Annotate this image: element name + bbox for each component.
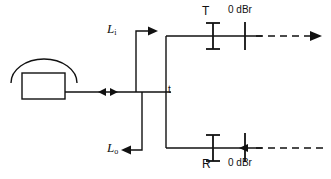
line-out-path (131, 92, 142, 150)
telephone-handset-arc (11, 59, 77, 83)
line-out-arrowhead (121, 146, 131, 155)
label-line-out-subscript: o (114, 147, 118, 156)
diagram-canvas (0, 0, 331, 179)
label-level-point-top: 0 dBr (228, 5, 252, 15)
label-line-in: Li (107, 22, 116, 37)
line-out-branch (131, 92, 142, 150)
arrowhead-receive-in (239, 144, 248, 152)
telephone-hybrid-diagram: Li Lo t T R 0 dBr 0 dBr (0, 0, 331, 179)
label-transmit-t: T (202, 5, 209, 17)
arrowhead-right (110, 88, 118, 96)
telephone-set-icon (11, 59, 77, 99)
telephone-base-box (22, 73, 65, 99)
line-in-branch (136, 31, 148, 92)
label-level-point-bottom: 0 dBr (228, 158, 252, 168)
transmit-output-arrowhead (310, 31, 322, 41)
line-in-arrowhead (148, 27, 158, 36)
label-receive-r: R (202, 158, 211, 170)
arrowhead-left (98, 88, 106, 96)
label-line-out: Lo (107, 141, 118, 156)
arrowhead-transmit-out (310, 31, 322, 41)
arrowhead-line-in (148, 27, 158, 36)
label-junction-t: t (168, 85, 171, 95)
arrowhead-line-out (121, 146, 131, 155)
receive-input-arrowhead (239, 144, 248, 152)
label-line-in-subscript: i (114, 28, 116, 37)
line-in-path (136, 31, 148, 92)
